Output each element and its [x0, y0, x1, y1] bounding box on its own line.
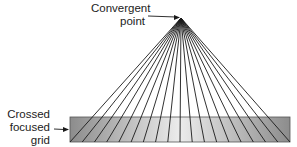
- convergent-grid-diagram: [0, 0, 297, 147]
- grid-arrow: [54, 127, 69, 132]
- convergent-point-arrow: [148, 15, 180, 20]
